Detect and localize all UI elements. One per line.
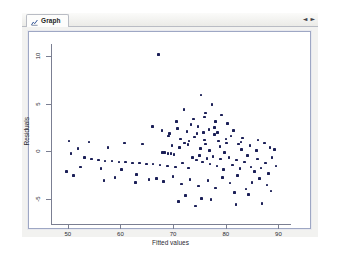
- data-point: [131, 162, 134, 165]
- data-point: [267, 172, 270, 175]
- data-point: [219, 158, 222, 161]
- data-point: [235, 203, 238, 206]
- data-point: [228, 156, 231, 159]
- data-point: [155, 177, 158, 180]
- data-point: [223, 151, 226, 154]
- data-point: [68, 140, 71, 143]
- data-point: [189, 178, 192, 181]
- data-point: [171, 144, 174, 147]
- x-tick-label: 70: [165, 231, 181, 237]
- data-point: [188, 140, 191, 143]
- data-point: [200, 197, 203, 200]
- y-tick: [46, 56, 51, 57]
- data-point: [151, 125, 154, 128]
- data-point: [111, 160, 114, 163]
- data-point: [134, 181, 137, 184]
- data-point: [170, 152, 173, 155]
- data-point: [240, 141, 243, 144]
- data-point: [120, 168, 123, 171]
- data-point: [209, 163, 212, 166]
- x-tick: [278, 225, 279, 229]
- data-point: [241, 137, 244, 140]
- data-point: [229, 182, 232, 185]
- data-point: [148, 178, 151, 181]
- data-point: [152, 163, 155, 166]
- data-point: [263, 142, 266, 145]
- tab-graph[interactable]: Graph: [26, 14, 69, 27]
- data-point: [214, 187, 217, 190]
- data-point: [255, 149, 258, 152]
- data-point: [233, 191, 236, 194]
- data-point: [88, 141, 91, 144]
- data-point: [250, 166, 253, 169]
- data-point: [200, 94, 203, 97]
- data-point: [231, 164, 234, 167]
- data-point: [258, 177, 261, 180]
- y-tick: [46, 104, 51, 105]
- data-point: [269, 146, 272, 149]
- data-point: [221, 176, 224, 179]
- y-tick-label: 0: [35, 145, 41, 157]
- data-point: [198, 154, 201, 157]
- data-point: [135, 173, 138, 176]
- data-point: [261, 202, 264, 205]
- data-point: [201, 161, 204, 164]
- data-point: [202, 131, 205, 134]
- data-point: [275, 165, 278, 168]
- data-point: [260, 167, 263, 170]
- data-point: [264, 162, 267, 165]
- y-tick-label: 5: [35, 98, 41, 110]
- data-point: [118, 161, 121, 164]
- data-point: [100, 167, 103, 170]
- data-point: [176, 127, 179, 130]
- data-point: [172, 175, 175, 178]
- data-point: [79, 166, 82, 169]
- data-point: [239, 167, 242, 170]
- data-point: [240, 148, 243, 151]
- tab-graph-label: Graph: [41, 18, 61, 25]
- data-point: [141, 143, 144, 146]
- data-point: [124, 161, 127, 164]
- data-point: [72, 174, 75, 177]
- data-point: [193, 136, 196, 139]
- y-tick: [46, 151, 51, 152]
- data-point: [199, 147, 202, 150]
- data-point: [77, 147, 80, 150]
- graph-window: Graph ◄ ► Residuals Fitted values -50510…: [22, 13, 318, 237]
- data-point: [196, 132, 199, 135]
- data-point: [192, 118, 195, 121]
- data-point: [236, 174, 239, 177]
- data-point: [212, 155, 215, 158]
- data-point: [114, 176, 117, 179]
- data-point: [163, 151, 166, 154]
- data-point: [216, 131, 219, 134]
- data-point: [220, 114, 223, 117]
- data-point: [226, 122, 229, 125]
- data-point: [203, 116, 206, 119]
- data-point: [179, 138, 182, 141]
- data-point: [270, 190, 273, 193]
- graph-icon: [31, 12, 38, 30]
- data-point: [232, 129, 235, 132]
- data-point: [90, 158, 93, 161]
- x-axis-title: Fitted values: [29, 240, 312, 247]
- data-point: [191, 156, 194, 159]
- tab-prev-arrow-icon[interactable]: ◄: [303, 16, 308, 22]
- data-point: [183, 108, 186, 111]
- data-point: [104, 160, 107, 163]
- data-point: [187, 167, 190, 170]
- data-point: [83, 156, 86, 159]
- x-tick: [173, 225, 174, 229]
- data-point: [247, 193, 250, 196]
- data-point: [216, 165, 219, 168]
- data-point: [230, 135, 233, 138]
- scatter-plot-area: [52, 44, 289, 211]
- tab-next-arrow-icon[interactable]: ►: [310, 16, 315, 22]
- data-point: [157, 53, 160, 56]
- data-point: [161, 129, 164, 132]
- data-point: [178, 146, 181, 149]
- data-point: [194, 205, 197, 208]
- y-axis-title: Residuals: [24, 117, 31, 146]
- data-point: [187, 143, 190, 146]
- data-point: [203, 139, 206, 142]
